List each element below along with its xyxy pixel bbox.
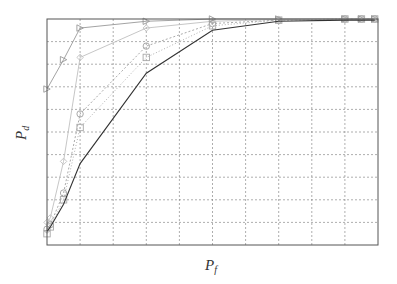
y-axis-label: Pd [13,125,31,141]
roc-chart: Pf Pd [0,0,397,284]
series-line-dag [47,19,375,222]
main-plot-series [44,16,378,237]
grid-lines [47,19,378,245]
circle-marker [60,190,66,196]
x-axis-label: Pf [204,257,218,275]
series-line-ed [47,19,375,89]
series-line-mme [47,19,375,234]
